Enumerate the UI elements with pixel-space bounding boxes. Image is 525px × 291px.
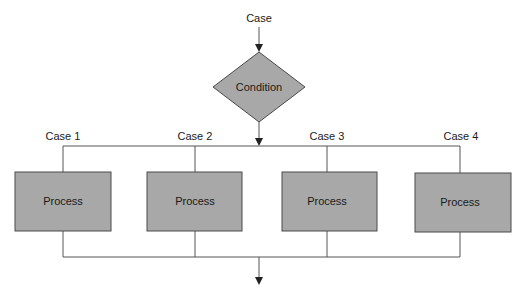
case-3-label: Case 3 <box>310 130 345 142</box>
entry-arrow <box>255 27 263 52</box>
branch-3: Process <box>282 146 377 257</box>
case-2-label: Case 2 <box>178 130 213 142</box>
decision-label: Condition <box>236 81 282 93</box>
decision-node: Condition <box>213 52 305 122</box>
case-4-label: Case 4 <box>444 130 479 142</box>
flowchart-canvas: Case Condition Case 1 Case 2 Case 3 Case… <box>0 0 525 291</box>
case-1-label: Case 1 <box>46 130 81 142</box>
process-3-label: Process <box>307 195 347 207</box>
process-1-label: Process <box>43 195 83 207</box>
branch-1: Process <box>15 146 111 257</box>
entry-label: Case <box>246 12 272 24</box>
process-2-label: Process <box>175 195 215 207</box>
decision-arrow <box>255 122 263 146</box>
branch-2: Process <box>147 146 242 257</box>
branch-4: Process <box>415 146 511 257</box>
exit-arrow <box>255 257 263 285</box>
process-4-label: Process <box>440 196 480 208</box>
